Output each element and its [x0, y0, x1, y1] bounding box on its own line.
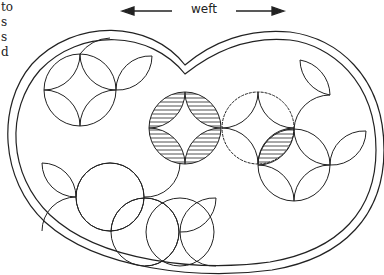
bottom-left-motif — [42, 163, 216, 266]
arrow-left-icon — [122, 7, 134, 15]
right-motif — [258, 60, 366, 201]
arrow-right-icon — [272, 7, 284, 15]
top-left-motif — [44, 38, 152, 126]
center-hatched-motif — [149, 92, 221, 164]
center-stitched-motif — [222, 92, 294, 164]
weft-arrow — [122, 7, 284, 15]
quilt-diagram — [0, 0, 384, 275]
